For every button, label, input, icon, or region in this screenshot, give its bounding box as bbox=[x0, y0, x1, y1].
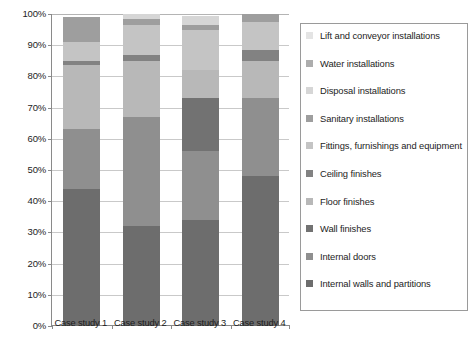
legend-item[interactable]: Sanitary installations bbox=[306, 113, 463, 125]
bar-segment[interactable] bbox=[123, 117, 160, 226]
legend-item[interactable]: Lift and conveyor installations bbox=[306, 30, 463, 42]
legend-swatch-icon bbox=[306, 87, 313, 94]
bar-segment[interactable] bbox=[182, 25, 219, 30]
legend-item-label: Internal walls and partitions bbox=[320, 278, 431, 290]
bar-stack bbox=[63, 14, 100, 325]
legend-item-label: Water installations bbox=[320, 58, 394, 70]
bar-segment[interactable] bbox=[63, 17, 100, 42]
y-axis-tick-label: 10% bbox=[4, 289, 46, 300]
y-axis-tick-label: 80% bbox=[4, 70, 46, 81]
bar-segment[interactable] bbox=[242, 98, 279, 176]
y-axis-tick-label: 30% bbox=[4, 226, 46, 237]
legend-item-label: Lift and conveyor installations bbox=[320, 30, 440, 42]
legend-item[interactable]: Floor finishes bbox=[306, 196, 463, 208]
legend-item[interactable]: Internal walls and partitions bbox=[306, 278, 463, 290]
bar-segment[interactable] bbox=[242, 22, 279, 50]
legend-item-label: Floor finishes bbox=[320, 196, 374, 208]
bar-stack bbox=[242, 14, 279, 325]
x-axis-tick-label: Case study 3 bbox=[170, 318, 230, 328]
legend-item-label: Wall finishes bbox=[320, 223, 371, 235]
legend-item[interactable]: Internal doors bbox=[306, 251, 463, 263]
legend-swatch-icon bbox=[306, 142, 313, 149]
legend-swatch-icon bbox=[306, 60, 313, 67]
legend-item[interactable]: Disposal installations bbox=[306, 85, 463, 97]
legend-item-label: Internal doors bbox=[320, 251, 376, 263]
bar-segment[interactable] bbox=[123, 25, 160, 55]
bar-column[interactable] bbox=[123, 14, 160, 325]
bar-segment[interactable] bbox=[63, 189, 100, 326]
bar-segment[interactable] bbox=[63, 61, 100, 66]
bar-segment[interactable] bbox=[182, 70, 219, 98]
legend-swatch-icon bbox=[306, 170, 313, 177]
legend-swatch-icon bbox=[306, 280, 313, 287]
chart-root: 0%10%20%30%40%50%60%70%80%90%100% Case s… bbox=[0, 0, 472, 364]
y-axis-tick-label: 70% bbox=[4, 102, 46, 113]
bar-segment[interactable] bbox=[182, 98, 219, 151]
legend-item-label: Fittings, furnishings and equipment bbox=[320, 140, 462, 152]
bar-segment[interactable] bbox=[242, 61, 279, 98]
legend-swatch-icon bbox=[306, 198, 313, 205]
x-axis-tick-label: Case study 1 bbox=[51, 318, 111, 328]
x-axis-tick-label: Case study 2 bbox=[111, 318, 171, 328]
legend-item-label: Sanitary installations bbox=[320, 113, 404, 125]
y-axis-tick-label: 90% bbox=[4, 39, 46, 50]
bar-segment[interactable] bbox=[63, 129, 100, 188]
legend-item[interactable]: Fittings, furnishings and equipment bbox=[306, 140, 463, 152]
bar-segment[interactable] bbox=[242, 50, 279, 61]
bar-stack bbox=[182, 14, 219, 325]
bar-segment[interactable] bbox=[123, 19, 160, 25]
bar-column[interactable] bbox=[242, 14, 279, 325]
bar-segment[interactable] bbox=[182, 151, 219, 220]
bar-column[interactable] bbox=[182, 14, 219, 325]
x-axis-tick-label: Case study 4 bbox=[230, 318, 290, 328]
x-axis-tick-mark bbox=[289, 325, 290, 329]
bar-group bbox=[52, 14, 289, 325]
legend-item-label: Disposal installations bbox=[320, 85, 405, 97]
y-axis-tick-label: 40% bbox=[4, 195, 46, 206]
bar-segment[interactable] bbox=[123, 55, 160, 61]
legend-swatch-icon bbox=[306, 225, 313, 232]
bar-stack bbox=[123, 14, 160, 325]
y-axis-tick-label: 0% bbox=[4, 320, 46, 331]
bar-segment[interactable] bbox=[63, 42, 100, 61]
legend-item-label: Ceiling finishes bbox=[320, 168, 381, 180]
legend-swatch-icon bbox=[306, 32, 313, 39]
legend-swatch-icon bbox=[306, 115, 313, 122]
y-axis-tick-label: 60% bbox=[4, 133, 46, 144]
legend-list: Lift and conveyor installationsWater ins… bbox=[306, 30, 463, 304]
y-axis-tick-label: 100% bbox=[4, 8, 46, 19]
plot-area bbox=[51, 14, 289, 326]
bar-segment[interactable] bbox=[182, 16, 219, 25]
legend-item[interactable]: Water installations bbox=[306, 58, 463, 70]
y-axis-tick-label: 50% bbox=[4, 164, 46, 175]
bar-segment[interactable] bbox=[123, 226, 160, 326]
legend-item[interactable]: Wall finishes bbox=[306, 223, 463, 235]
legend-item[interactable]: Ceiling finishes bbox=[306, 168, 463, 180]
bar-segment[interactable] bbox=[182, 220, 219, 326]
bar-column[interactable] bbox=[63, 14, 100, 325]
legend: Lift and conveyor installationsWater ins… bbox=[300, 23, 468, 311]
bar-segment[interactable] bbox=[242, 14, 279, 22]
bar-segment[interactable] bbox=[123, 14, 160, 19]
bar-segment[interactable] bbox=[63, 65, 100, 129]
bar-segment[interactable] bbox=[182, 30, 219, 71]
y-axis-tick-label: 20% bbox=[4, 258, 46, 269]
bar-segment[interactable] bbox=[242, 176, 279, 326]
bar-segment[interactable] bbox=[123, 61, 160, 117]
legend-swatch-icon bbox=[306, 253, 313, 260]
